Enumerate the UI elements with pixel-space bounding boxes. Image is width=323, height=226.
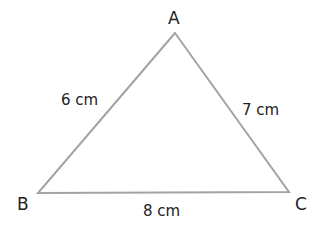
vertex-label-c: C bbox=[295, 194, 307, 214]
side-label-ab: 6 cm bbox=[61, 91, 98, 109]
side-label-ac: 7 cm bbox=[242, 101, 279, 119]
vertex-label-a: A bbox=[168, 8, 180, 28]
side-label-bc: 8 cm bbox=[143, 202, 180, 220]
vertex-label-b: B bbox=[17, 194, 29, 214]
triangle-diagram: A B C 6 cm 7 cm 8 cm bbox=[0, 0, 323, 226]
